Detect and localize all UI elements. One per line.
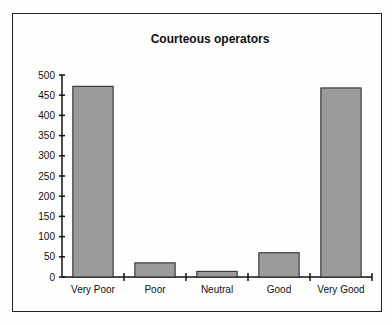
bar-neutral xyxy=(197,271,237,277)
x-tick-label: Good xyxy=(267,284,291,295)
y-tick-label: 0 xyxy=(49,272,55,283)
bar-poor xyxy=(135,263,175,277)
y-tick-label: 50 xyxy=(44,251,56,262)
x-tick-label: Poor xyxy=(144,284,166,295)
x-tick-label: Very Poor xyxy=(71,284,116,295)
bar-chart: Courteous operators 05010015020025030035… xyxy=(0,0,392,325)
y-tick-label: 300 xyxy=(38,150,55,161)
y-tick-label: 350 xyxy=(38,130,55,141)
bar-good xyxy=(259,253,299,277)
y-tick-label: 200 xyxy=(38,191,55,202)
bar-very-good xyxy=(321,88,361,277)
y-tick-label: 100 xyxy=(38,231,55,242)
x-tick-label: Very Good xyxy=(317,284,364,295)
y-tick-label: 400 xyxy=(38,110,55,121)
y-tick-label: 500 xyxy=(38,70,55,81)
y-tick-label: 250 xyxy=(38,171,55,182)
chart-title: Courteous operators xyxy=(151,32,270,46)
bars xyxy=(73,86,361,277)
y-tick-label: 450 xyxy=(38,90,55,101)
y-tick-label: 150 xyxy=(38,211,55,222)
bar-very-poor xyxy=(73,86,113,277)
y-axis: 050100150200250300350400450500 xyxy=(38,70,65,283)
x-tick-label: Neutral xyxy=(201,284,233,295)
